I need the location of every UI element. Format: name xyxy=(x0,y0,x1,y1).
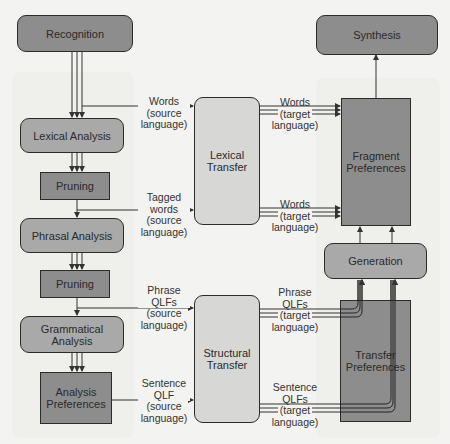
overlay-connector-lines xyxy=(0,0,450,444)
